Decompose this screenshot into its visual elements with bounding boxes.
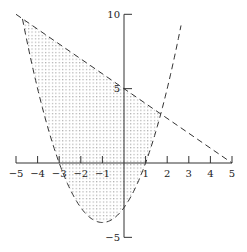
x-tick-label: 1 xyxy=(142,168,148,179)
shaded-region-fill xyxy=(22,19,160,223)
x-tick-label: −2 xyxy=(73,168,88,179)
x-tick-label: 2 xyxy=(164,168,170,179)
x-tick-label: −3 xyxy=(52,168,67,179)
x-tick-label: −1 xyxy=(95,168,110,179)
y-tick-label: 10 xyxy=(107,9,120,20)
y-tick-label: 5 xyxy=(114,83,120,94)
x-tick-label: −5 xyxy=(9,168,24,179)
x-tick-label: 3 xyxy=(186,168,192,179)
chart-plot: −5−4−3−2−112345−5510 xyxy=(0,0,247,252)
x-tick-label: −4 xyxy=(30,168,45,179)
x-tick-label: 4 xyxy=(207,168,213,179)
y-tick-label: −5 xyxy=(105,232,120,243)
shaded-region xyxy=(22,19,160,223)
x-tick-label: 5 xyxy=(229,168,235,179)
